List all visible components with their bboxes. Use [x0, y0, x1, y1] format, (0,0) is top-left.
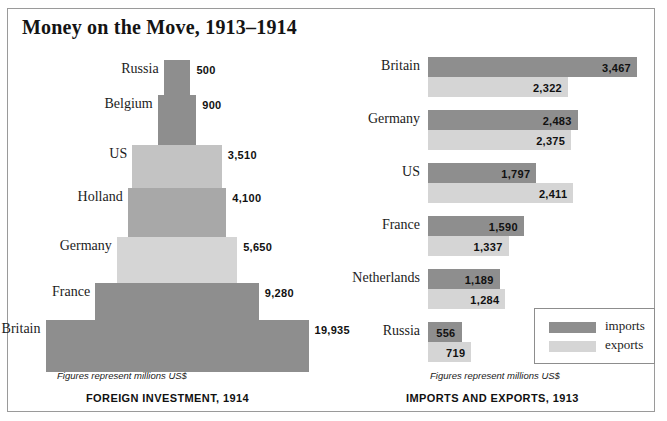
bar-label-netherlands: Netherlands [352, 270, 420, 286]
legend-swatch-imports [549, 322, 596, 333]
pyramid-label-russia: Russia [121, 61, 158, 77]
bar-value-imports-russia: 556 [414, 327, 456, 339]
bar-value-imports-netherlands: 1,189 [452, 274, 494, 286]
bar-value-exports-netherlands: 1,284 [457, 294, 499, 306]
bar-label-britain: Britain [381, 58, 420, 74]
bar-value-imports-france: 1,590 [476, 221, 518, 233]
pyramid-value-germany: 5,650 [243, 241, 272, 253]
chart-legend: imports exports [534, 308, 655, 364]
bar-value-exports-france: 1,337 [461, 241, 503, 253]
pyramid-label-germany: Germany [60, 238, 112, 254]
bar-label-germany: Germany [368, 111, 420, 127]
pyramid-tier-belgium [158, 95, 197, 145]
bar-value-exports-germany: 2,375 [523, 135, 565, 147]
pyramid-label-france: France [52, 284, 90, 300]
pyramid-value-holland: 4,100 [232, 192, 261, 204]
pyramid-tier-russia [164, 60, 191, 95]
pyramid-label-britain: Britain [2, 321, 41, 337]
legend-label-exports: exports [605, 337, 643, 353]
bar-label-us: US [402, 164, 420, 180]
foreign-investment-pyramid: Russia Belgium US Holland Germany France… [0, 0, 340, 421]
pyramid-tier-holland [128, 188, 227, 237]
pyramid-tier-us [132, 145, 222, 188]
pyramid-tier-germany [117, 237, 237, 283]
pyramid-value-france: 9,280 [265, 287, 294, 299]
bar-value-exports-us: 2,411 [525, 188, 567, 200]
bar-value-imports-us: 1,797 [488, 168, 530, 180]
right-note: Figures represent millions US$ [430, 370, 560, 381]
bar-value-exports-britain: 2,322 [520, 82, 562, 94]
bar-label-france: France [382, 217, 420, 233]
bar-value-imports-britain: 3,467 [589, 62, 631, 74]
pyramid-value-us: 3,510 [228, 149, 257, 161]
bar-value-exports-russia: 719 [423, 347, 465, 359]
pyramid-label-holland: Holland [78, 189, 123, 205]
pyramid-tier-britain [46, 320, 309, 372]
pyramid-label-belgium: Belgium [105, 96, 153, 112]
legend-swatch-exports [549, 341, 596, 352]
bar-value-imports-germany: 2,483 [530, 115, 572, 127]
legend-label-imports: imports [605, 318, 645, 334]
left-note: Figures represent millions US$ [57, 370, 187, 381]
pyramid-label-us: US [109, 146, 127, 162]
pyramid-value-belgium: 900 [202, 99, 221, 111]
left-caption: FOREIGN INVESTMENT, 1914 [86, 392, 249, 404]
pyramid-tier-france [95, 283, 259, 320]
right-caption: IMPORTS AND EXPORTS, 1913 [406, 392, 579, 404]
pyramid-value-russia: 500 [196, 64, 215, 76]
